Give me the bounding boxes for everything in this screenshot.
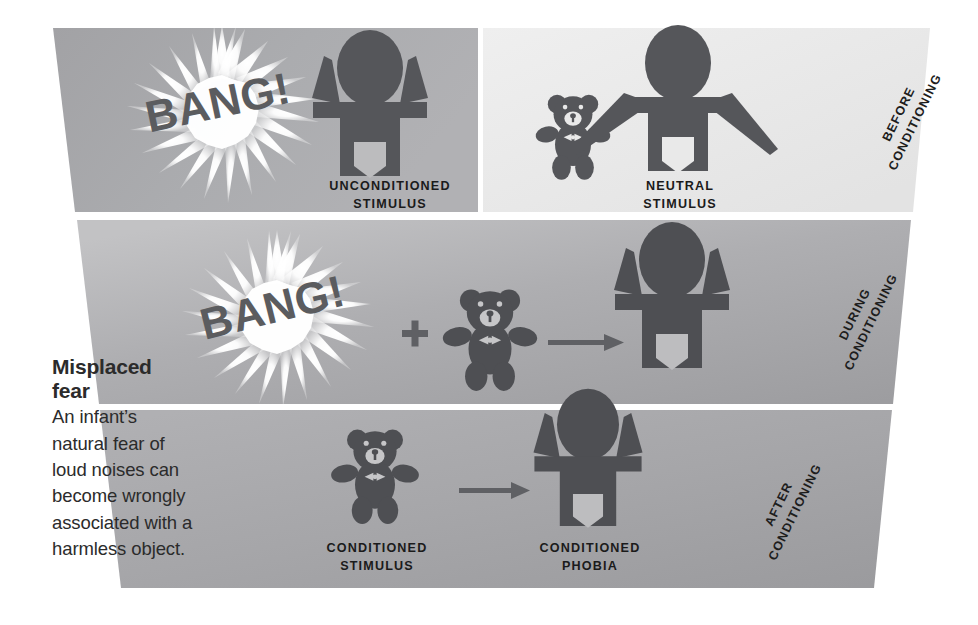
burst-spikes-icon [127, 25, 319, 203]
child-figure-row2 [614, 222, 730, 370]
caption-line-2: STIMULUS [300, 196, 480, 214]
caption-unconditioned-stimulus: UNCONDITIONED STIMULUS [300, 178, 480, 214]
caption-line-1: UNCONDITIONED [300, 178, 480, 196]
caption-heading: Misplaced fear [52, 355, 242, 402]
caption-line-1: CONDITIONED [287, 540, 467, 558]
caption-conditioned-phobia: CONDITIONED PHOBIA [500, 540, 680, 576]
caption-body-line-1: An infant’s [52, 404, 242, 430]
arrow-operator-row2 [548, 334, 624, 351]
stage-label-after-conditioning: AFTER CONDITIONING [742, 442, 832, 575]
caption-line-1: NEUTRAL [610, 178, 750, 196]
child-figure-row1-right [566, 25, 778, 173]
child-figure-row1-left [312, 30, 428, 178]
stage-label-during-conditioning: DURING CONDITIONING [818, 252, 908, 385]
teddy-figure-row1 [534, 95, 612, 180]
bang-burst-row1: BANG! [127, 25, 319, 203]
caption-heading-line-2: fear [52, 379, 242, 403]
bang-text-row2: BANG! [195, 266, 349, 349]
caption-body-line-3: loud noises can [52, 457, 242, 483]
teddy-figure-row3 [330, 430, 421, 524]
caption-line-2: STIMULUS [610, 196, 750, 214]
caption-line-2: PHOBIA [500, 558, 680, 576]
caption-body-line-6: harmless object. [52, 536, 242, 562]
caption-body-line-4: become wrongly [52, 483, 242, 509]
misplaced-fear-caption: Misplaced fear An infant’s natural fear … [52, 355, 242, 562]
caption-heading-line-1: Misplaced [52, 355, 242, 379]
caption-body: An infant’s natural fear of loud noises … [52, 404, 242, 562]
caption-conditioned-stimulus: CONDITIONED STIMULUS [287, 540, 467, 576]
caption-body-line-5: associated with a [52, 510, 242, 536]
teddy-figure-row2 [441, 289, 538, 390]
child-figure-row3 [533, 389, 642, 528]
arrow-operator-row3 [459, 482, 530, 499]
bang-text-row1: BANG! [141, 63, 295, 141]
caption-line-2: STIMULUS [287, 558, 467, 576]
caption-line-1: CONDITIONED [500, 540, 680, 558]
plus-operator-row2 [402, 321, 428, 347]
caption-neutral-stimulus: NEUTRAL STIMULUS [610, 178, 750, 214]
stage-label-before-conditioning: BEFORE CONDITIONING [862, 52, 952, 185]
caption-body-line-2: natural fear of [52, 431, 242, 457]
infographic-canvas: BANG! [0, 0, 978, 625]
panel-row-before [53, 28, 930, 212]
